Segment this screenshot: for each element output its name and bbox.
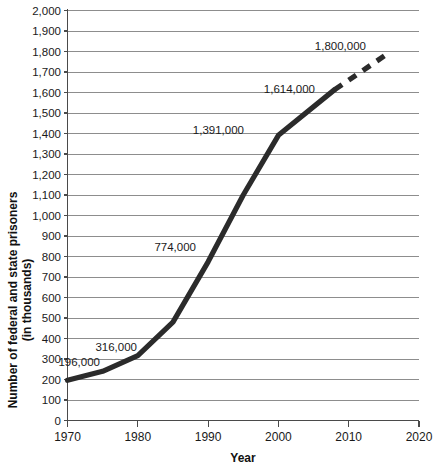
y-tick-label-800: 800 bbox=[42, 251, 61, 263]
y-tick-label-100: 100 bbox=[42, 394, 61, 406]
x-tick-label-2010: 2010 bbox=[335, 430, 362, 444]
y-tick-label-500: 500 bbox=[42, 312, 61, 324]
chart-background bbox=[0, 0, 438, 469]
x-tick-label-1990: 1990 bbox=[195, 430, 222, 444]
y-tick-label-1000: 1,000 bbox=[32, 210, 61, 222]
x-tick-label-2020: 2020 bbox=[406, 430, 433, 444]
y-tick-label-200: 200 bbox=[42, 374, 61, 386]
x-axis-title: Year bbox=[230, 451, 256, 465]
y-tick-label-2000: 2,000 bbox=[32, 5, 61, 17]
y-axis-title-line1: Number of federal and state prisoners bbox=[6, 191, 20, 408]
y-tick-label-1400: 1,400 bbox=[32, 128, 61, 140]
y-tick-label-1800: 1,800 bbox=[32, 46, 61, 58]
x-tick-label-1970: 1970 bbox=[54, 430, 81, 444]
y-tick-label-0: 0 bbox=[55, 415, 61, 427]
gridlines bbox=[64, 11, 419, 421]
annotation-1391000: 1,391,000 bbox=[193, 124, 244, 136]
annotation-196000: 196,000 bbox=[58, 356, 100, 368]
y-tick-label-1100: 1,100 bbox=[32, 189, 61, 201]
y-tick-label-1500: 1,500 bbox=[32, 107, 61, 119]
y-tick-label-900: 900 bbox=[42, 230, 61, 242]
y-tick-label-1200: 1,200 bbox=[32, 169, 61, 181]
y-tick-label-400: 400 bbox=[42, 333, 61, 345]
annotation-1614000: 1,614,000 bbox=[264, 83, 315, 95]
y-tick-label-1300: 1,300 bbox=[32, 148, 61, 160]
x-tick-label-2000: 2000 bbox=[265, 430, 292, 444]
x-tick-label-1980: 1980 bbox=[124, 430, 151, 444]
prisoner-population-line-chart: 01002003004005006007008009001,0001,1001,… bbox=[0, 0, 438, 469]
y-tick-label-600: 600 bbox=[42, 292, 61, 304]
annotation-316000: 316,000 bbox=[95, 341, 137, 353]
y-axis-title-line2: (in thousands) bbox=[20, 259, 34, 342]
chart-canvas: 01002003004005006007008009001,0001,1001,… bbox=[0, 0, 438, 469]
y-tick-label-1700: 1,700 bbox=[32, 66, 61, 78]
y-tick-label-1600: 1,600 bbox=[32, 87, 61, 99]
y-tick-label-700: 700 bbox=[42, 271, 61, 283]
y-tick-label-1900: 1,900 bbox=[32, 25, 61, 37]
annotation-1800000: 1,800,000 bbox=[315, 40, 366, 52]
annotation-774000: 774,000 bbox=[154, 241, 196, 253]
